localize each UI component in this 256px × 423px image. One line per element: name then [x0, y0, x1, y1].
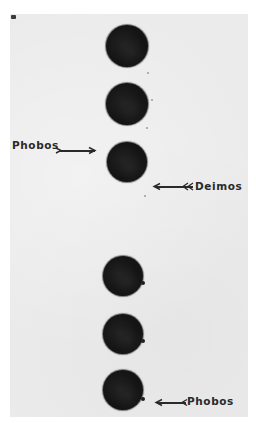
label-phobos-upper: Phobos: [12, 140, 59, 151]
arrow-deimos: [155, 186, 193, 188]
arrow-right-icon: [56, 146, 96, 155]
plate-speck: [147, 72, 149, 74]
mars-disc-2: [106, 83, 148, 125]
arrow-left-icon: [154, 182, 196, 191]
mars-disc-4: [103, 256, 143, 296]
moon-bump-disc-4: [141, 281, 145, 285]
arrow-left-icon: [156, 398, 190, 407]
photographic-plate: [10, 14, 248, 417]
label-deimos: Deimos: [195, 181, 242, 192]
arrow-phobos-upper: [60, 150, 95, 152]
mars-disc-6: [103, 370, 143, 410]
arrow-phobos-lower: [157, 402, 186, 404]
mars-disc-3: [107, 142, 147, 182]
plate-speck: [151, 99, 153, 101]
mars-disc-1: [106, 25, 148, 67]
mars-disc-5: [103, 314, 143, 354]
plate-speck: [144, 195, 146, 197]
plate-corner-mark: [11, 15, 16, 19]
moon-bump-disc-6: [141, 397, 145, 401]
plate-speck: [146, 127, 148, 129]
moon-bump-disc-5: [141, 339, 145, 343]
label-phobos-lower: Phobos: [187, 396, 234, 407]
